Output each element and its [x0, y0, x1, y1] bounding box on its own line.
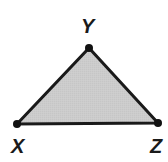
vertex-dot-y — [85, 44, 93, 52]
vertex-label-z: Z — [150, 136, 162, 156]
vertex-label-y: Y — [81, 16, 94, 36]
vertex-label-x: X — [11, 136, 24, 156]
geometry-figure: X Y Z — [0, 0, 168, 162]
triangle-shaded-region — [17, 48, 158, 124]
vertex-dot-z — [154, 119, 162, 127]
vertex-dot-x — [13, 120, 21, 128]
